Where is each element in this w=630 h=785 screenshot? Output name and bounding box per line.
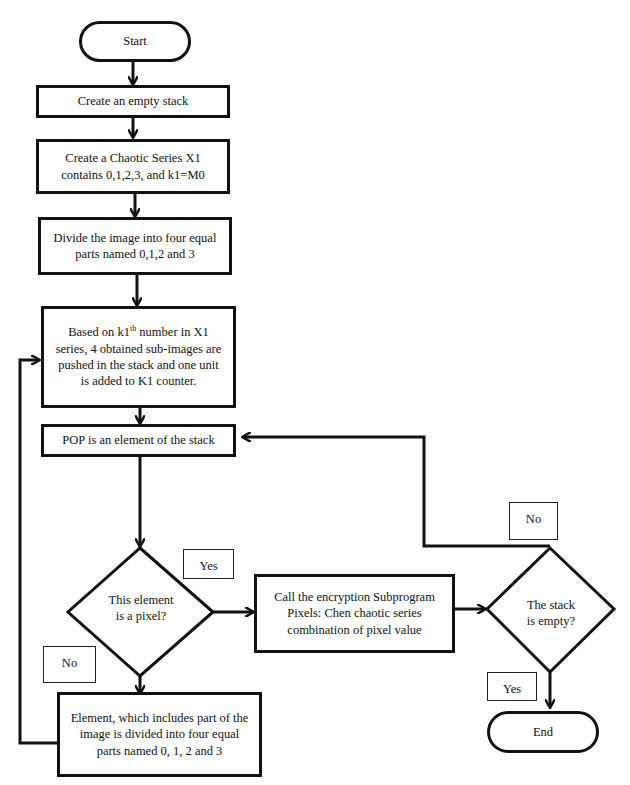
decision-empty-text: The stack is empty? [522, 597, 580, 630]
create-series-step: Create a Chaotic Series X1 contains 0,1,… [36, 139, 230, 194]
subdivide-step: Element, which includes part of the imag… [57, 692, 262, 777]
create-stack-text: Create an empty stack [78, 93, 189, 109]
end-terminal: End [487, 711, 599, 753]
pixel-yes-label: Yes [183, 549, 234, 579]
encrypt-text: Call the encryption Subprogram Pixels: C… [267, 589, 442, 638]
divide-image-step: Divide the image into four equal parts n… [38, 217, 232, 275]
push-sub-images-step: Based on k1th number in X1 series, 4 obt… [41, 306, 236, 408]
empty-yes-label: Yes [487, 672, 537, 701]
pixel-no-label: No [43, 646, 96, 683]
pop-text: POP is an element of the stack [62, 432, 214, 448]
create-stack-step: Create an empty stack [36, 85, 230, 118]
pop-step: POP is an element of the stack [41, 424, 236, 457]
start-terminal: Start [79, 21, 191, 62]
divide-image-text: Divide the image into four equal parts n… [51, 230, 219, 263]
empty-no-label: No [509, 502, 558, 540]
create-series-text: Create a Chaotic Series X1 contains 0,1,… [49, 150, 217, 183]
start-label: Start [123, 33, 147, 49]
push-sub-images-text: Based on k1th number in X1 series, 4 obt… [54, 324, 223, 389]
decision-pixel-text: This element is a pixel? [108, 592, 174, 625]
end-label: End [533, 724, 553, 740]
encrypt-step: Call the encryption Subprogram Pixels: C… [254, 574, 455, 653]
subdivide-text: Element, which includes part of the imag… [70, 710, 249, 759]
